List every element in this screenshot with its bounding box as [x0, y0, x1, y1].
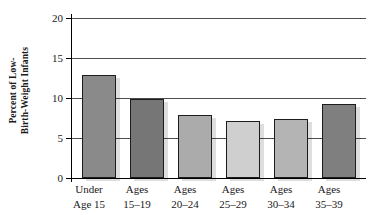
x-tick-label-5-line-2: 35–39 — [293, 197, 365, 212]
y-tick-label-5: 5 — [37, 133, 63, 144]
gridline-15 — [72, 58, 366, 59]
bar-ages-30-34[interactable] — [274, 119, 308, 178]
plot-area: 20 15 10 5 0 — [72, 14, 366, 182]
y-tick-15 — [66, 58, 72, 59]
x-tick-label-5-line-1: Ages — [293, 182, 365, 197]
gridline-10 — [72, 98, 366, 99]
bar-ages-20-24[interactable] — [178, 115, 212, 178]
y-tick-10 — [66, 98, 72, 99]
x-tick-label-5: Ages 35–39 — [293, 182, 365, 212]
bar-chart: Percent of Low- Birth-Weight Infants 20 … — [0, 0, 374, 215]
y-tick-label-15: 15 — [37, 53, 63, 64]
bar-ages-25-29[interactable] — [226, 121, 260, 178]
y-tick-label-20: 20 — [37, 13, 63, 24]
bar-under-age-15[interactable] — [82, 75, 116, 178]
y-axis-title-line-2: Birth-Weight Infants — [20, 46, 32, 133]
bar-ages-15-19[interactable] — [130, 99, 164, 178]
y-axis-title-line-1: Percent of Low- — [9, 46, 21, 133]
y-tick-label-10: 10 — [37, 93, 63, 104]
y-tick-20 — [66, 18, 72, 19]
x-axis-line — [72, 178, 366, 179]
bar-ages-35-39[interactable] — [322, 104, 356, 178]
y-tick-5 — [66, 138, 72, 139]
gridline-20 — [72, 18, 366, 19]
y-axis-title: Percent of Low- Birth-Weight Infants — [0, 0, 40, 180]
